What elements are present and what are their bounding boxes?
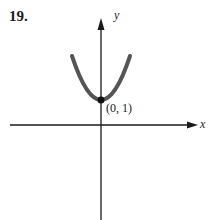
figure: 19. y x (0, 1) <box>0 0 210 220</box>
y-axis-arrow-icon <box>98 18 105 30</box>
plot-canvas <box>0 0 210 220</box>
x-axis-arrow-icon <box>187 122 198 129</box>
y-axis-label: y <box>114 8 119 23</box>
x-axis-label: x <box>200 117 205 132</box>
vertex-label: (0, 1) <box>106 101 132 116</box>
vertex-point <box>98 97 105 104</box>
problem-number: 19. <box>9 8 28 25</box>
